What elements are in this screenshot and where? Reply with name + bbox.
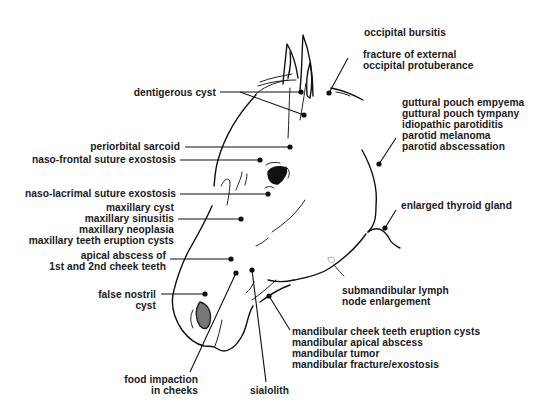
label-submandibular: submandibular lymph node enlargement [342, 285, 449, 307]
label-line: occipital bursitis [364, 27, 446, 38]
label-naso-frontal: naso-frontal suture exostosis [20, 154, 176, 165]
label-line: idiopathic parotiditis [402, 119, 524, 130]
label-dentigerous-cyst: dentigerous cyst [120, 87, 216, 98]
label-line: food impaction [110, 374, 198, 385]
label-apical-abscess: apical abscess of 1st and 2nd cheek teet… [30, 250, 166, 272]
label-naso-lacrimal: naso-lacrimal suture exostosis [10, 188, 176, 199]
label-line: fracture of external [363, 49, 473, 60]
label-enlarged-thyroid: enlarged thyroid gland [401, 200, 512, 211]
label-line: node enlargement [342, 296, 449, 307]
label-line: 1st and 2nd cheek teeth [30, 261, 166, 272]
label-maxillary: maxillary cyst maxillary sinusitis maxil… [10, 202, 174, 246]
label-line: mandibular fracture/exostosis [292, 359, 480, 370]
label-line: dentigerous cyst [120, 87, 216, 98]
label-line: in cheeks [110, 385, 198, 396]
label-line: guttural pouch empyema [402, 97, 524, 108]
label-line: mandibular cheek teeth eruption cysts [292, 326, 480, 337]
label-line: periorbital sarcoid [60, 141, 180, 152]
label-line: sialolith [250, 385, 289, 396]
label-line: mandibular tumor [292, 348, 480, 359]
label-line: naso-lacrimal suture exostosis [10, 188, 176, 199]
label-line: apical abscess of [30, 250, 166, 261]
label-line: enlarged thyroid gland [401, 200, 512, 211]
label-line: maxillary sinusitis [10, 213, 174, 224]
label-fracture-occipital: fracture of external occipital protubera… [363, 49, 473, 71]
label-food-impaction: food impaction in cheeks [110, 374, 198, 396]
label-line: parotid abscessation [402, 141, 524, 152]
label-periorbital-sarcoid: periorbital sarcoid [60, 141, 180, 152]
label-line: cyst [80, 300, 156, 311]
label-occipital-bursitis: occipital bursitis [364, 27, 446, 38]
label-guttural-parotid: guttural pouch empyema guttural pouch ty… [402, 97, 524, 152]
label-mandibular: mandibular cheek teeth eruption cysts ma… [292, 326, 480, 370]
label-line: maxillary teeth eruption cysts [10, 235, 174, 246]
label-line: occipital protuberance [363, 60, 473, 71]
label-false-nostril: false nostril cyst [80, 289, 156, 311]
label-line: false nostril [80, 289, 156, 300]
label-line: naso-frontal suture exostosis [20, 154, 176, 165]
label-line: submandibular lymph [342, 285, 449, 296]
label-line: maxillary neoplasia [10, 224, 174, 235]
label-sialolith: sialolith [250, 385, 289, 396]
label-line: guttural pouch tympany [402, 108, 524, 119]
label-line: mandibular apical abscess [292, 337, 480, 348]
label-line: parotid melanoma [402, 130, 524, 141]
label-line: maxillary cyst [10, 202, 174, 213]
